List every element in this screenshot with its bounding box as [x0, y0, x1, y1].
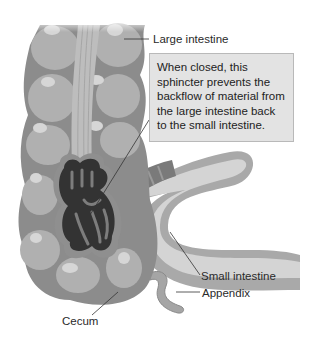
callout-text: When closed, this sphincter prevents the…: [157, 61, 285, 131]
large-intestine-shape: [19, 18, 158, 305]
label-cecum: Cecum: [62, 315, 98, 328]
intestine-illustration: [0, 0, 309, 342]
label-small-intestine: Small intestine: [201, 270, 276, 283]
label-appendix: Appendix: [202, 287, 250, 300]
label-large-intestine: Large intestine: [153, 33, 228, 46]
sphincter-callout-box: When closed, this sphincter prevents the…: [149, 53, 294, 142]
